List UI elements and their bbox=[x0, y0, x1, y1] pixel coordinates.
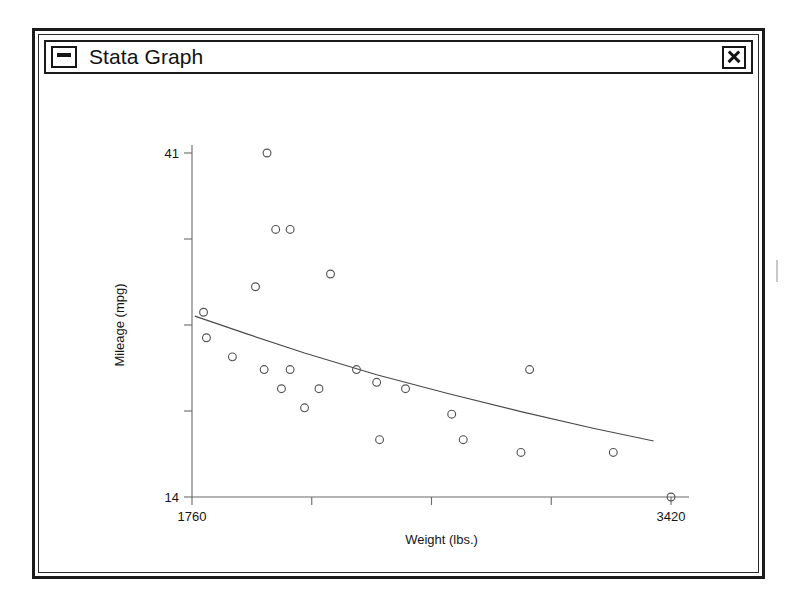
scan-speck bbox=[776, 260, 778, 282]
y-axis-title: Mileage (mpg) bbox=[112, 283, 127, 366]
scatter-plot: 411417603420Weight (lbs.)Mileage (mpg) bbox=[44, 77, 753, 567]
data-point-marker bbox=[263, 149, 271, 157]
data-point-marker bbox=[402, 385, 410, 393]
data-point-marker bbox=[228, 353, 236, 361]
data-point-marker bbox=[278, 385, 286, 393]
data-point-marker bbox=[459, 436, 467, 444]
data-point-marker bbox=[200, 308, 208, 316]
data-point-marker bbox=[376, 436, 384, 444]
x-tick-label-max: 3420 bbox=[657, 509, 686, 524]
x-axis-title: Weight (lbs.) bbox=[405, 532, 478, 547]
minimize-box-icon[interactable] bbox=[51, 46, 77, 68]
y-tick-label-max: 41 bbox=[165, 146, 179, 161]
data-point-marker bbox=[252, 283, 260, 291]
screenshot-root: Stata Graph 411417603420Weight (lbs.)Mil… bbox=[0, 0, 786, 606]
data-point-marker bbox=[301, 404, 309, 412]
y-tick-label-min: 14 bbox=[165, 490, 179, 505]
data-point-marker bbox=[203, 334, 211, 342]
x-tick-label-min: 1760 bbox=[178, 509, 207, 524]
graph-client-area: 411417603420Weight (lbs.)Mileage (mpg) bbox=[44, 77, 753, 567]
data-point-marker bbox=[327, 270, 335, 278]
data-point-marker bbox=[260, 366, 268, 374]
fitted-curve bbox=[195, 316, 654, 441]
stata-graph-window: Stata Graph 411417603420Weight (lbs.)Mil… bbox=[32, 28, 765, 579]
data-point-marker bbox=[448, 410, 456, 418]
window-titlebar: Stata Graph bbox=[44, 40, 753, 74]
data-point-marker bbox=[526, 366, 534, 374]
data-point-marker bbox=[315, 385, 323, 393]
data-point-marker bbox=[609, 449, 617, 457]
window-title: Stata Graph bbox=[89, 45, 203, 69]
data-point-marker bbox=[373, 378, 381, 386]
window-inner-border: Stata Graph 411417603420Weight (lbs.)Mil… bbox=[38, 34, 759, 573]
data-point-marker bbox=[517, 449, 525, 457]
close-x-icon[interactable] bbox=[722, 46, 746, 69]
data-point-marker bbox=[286, 226, 294, 234]
data-point-marker bbox=[272, 226, 280, 234]
data-point-marker bbox=[286, 366, 294, 374]
